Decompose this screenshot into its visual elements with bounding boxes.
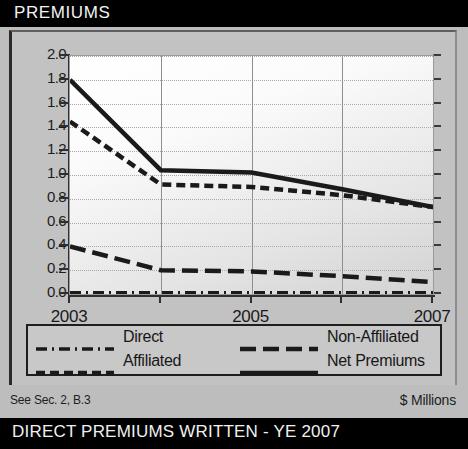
x-tick-mark — [68, 295, 70, 303]
legend-item: Non-Affiliated — [232, 326, 440, 352]
y-tick-mark-right — [433, 292, 441, 294]
legend-swatch — [36, 338, 114, 342]
y-tick-mark — [59, 197, 68, 199]
legend-label: Net Premiums — [327, 352, 425, 370]
y-tick-mark — [59, 173, 68, 175]
legend-label: Non-Affiliated — [327, 328, 419, 346]
x-tick-mark — [250, 295, 252, 303]
y-tick-mark — [59, 54, 68, 56]
y-tick-mark — [59, 149, 68, 151]
y-tick-mark-right — [433, 244, 441, 246]
y-tick-mark-right — [433, 221, 441, 223]
y-tick-mark — [59, 268, 68, 270]
units-label: $ Millions — [400, 392, 456, 408]
y-tick-mark-right — [433, 268, 441, 270]
y-tick-mark-right — [433, 54, 441, 56]
x-tick-mark — [159, 295, 161, 303]
chart-legend: DirectNon-AffiliatedAffiliatedNet Premiu… — [26, 324, 442, 376]
legend-swatch — [36, 362, 114, 366]
x-tick-mark — [340, 295, 342, 303]
series-lines — [70, 56, 433, 294]
y-tick-mark-right — [433, 173, 441, 175]
y-tick-mark-right — [433, 149, 441, 151]
legend-swatch — [240, 362, 318, 366]
x-tick-mark — [431, 295, 433, 303]
y-tick-mark — [59, 292, 68, 294]
page-title: PREMIUMS — [14, 3, 110, 23]
y-tick-mark — [59, 78, 68, 80]
y-tick-mark-right — [433, 197, 441, 199]
y-axis-labels: 0.00.20.40.60.81.01.21.41.61.82.0 — [12, 32, 66, 332]
x-axis-line — [68, 295, 435, 297]
y-tick-mark-right — [433, 102, 441, 104]
footer-row: See Sec. 2, B.3 $ Millions — [0, 390, 468, 416]
legend-item: Affiliated — [28, 350, 236, 376]
legend-label: Affiliated — [123, 352, 181, 370]
title-bar: PREMIUMS — [0, 0, 468, 27]
y-tick-mark — [59, 125, 68, 127]
chart-panel: 0.00.20.40.60.81.01.21.41.61.82.0 200320… — [9, 30, 457, 385]
legend-label: Direct — [123, 328, 163, 346]
source-note: See Sec. 2, B.3 — [10, 393, 90, 407]
legend-item: Direct — [28, 326, 236, 352]
y-tick-mark-right — [433, 78, 441, 80]
bottom-banner-text: DIRECT PREMIUMS WRITTEN - YE 2007 — [12, 422, 340, 442]
plot-area — [69, 55, 434, 295]
bottom-banner: DIRECT PREMIUMS WRITTEN - YE 2007 — [0, 418, 468, 449]
series-non-affiliated — [70, 246, 433, 282]
legend-swatch — [240, 338, 318, 342]
y-tick-mark — [59, 244, 68, 246]
y-tick-mark — [59, 102, 68, 104]
y-tick-mark — [59, 221, 68, 223]
y-tick-mark-right — [433, 125, 441, 127]
legend-item: Net Premiums — [232, 350, 440, 376]
premiums-chart-card: PREMIUMS 0.00.20.40.60.81.01.21.41.61.82… — [0, 0, 468, 449]
